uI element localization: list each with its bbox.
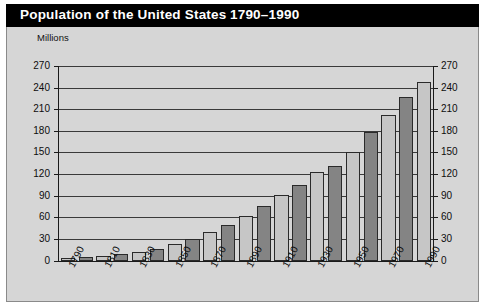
chart-title: Population of the United States: [20, 7, 226, 22]
y-axis-tick-left: [54, 217, 58, 218]
y-axis-label-right: 60: [441, 212, 475, 222]
y-axis-tick-left: [54, 174, 58, 175]
y-axis-tick-right: [434, 174, 438, 175]
y-axis-label-right: 120: [441, 169, 475, 179]
y-axis-tick-left: [54, 152, 58, 153]
chart-plate: Millions 0306090120150180210240270 03060…: [6, 27, 479, 302]
y-axis-tick-left: [54, 239, 58, 240]
bars-group: [59, 66, 433, 261]
y-axis-label-right: 0: [441, 256, 475, 266]
y-axis-label-left: 210: [16, 104, 50, 114]
y-axis-tick-right: [434, 239, 438, 240]
y-axis-label-left: 120: [16, 169, 50, 179]
bar-1980: [399, 97, 413, 261]
y-axis-tick-left: [54, 88, 58, 89]
y-axis-tick-right: [434, 196, 438, 197]
y-axis-label-left: 180: [16, 126, 50, 136]
y-axis-tick-right: [434, 152, 438, 153]
y-axis-tick-left: [54, 196, 58, 197]
y-axis-tick-right: [434, 66, 438, 67]
y-axis-units-label: Millions: [37, 32, 69, 43]
bar-1990: [417, 82, 431, 261]
y-axis-label-right: 240: [441, 83, 475, 93]
y-axis-tick-right: [434, 131, 438, 132]
bar-1970: [381, 115, 395, 261]
y-axis-label-right: 90: [441, 191, 475, 201]
y-axis-label-right: 270: [441, 61, 475, 71]
y-axis-label-right: 150: [441, 147, 475, 157]
y-axis-label-left: 60: [16, 212, 50, 222]
y-axis-label-right: 30: [441, 234, 475, 244]
y-axis-label-left: 240: [16, 83, 50, 93]
y-axis-tick-left: [54, 66, 58, 67]
bar-1960: [364, 132, 378, 261]
y-axis-tick-left: [54, 109, 58, 110]
bar-1950: [346, 152, 360, 261]
plot-area: [58, 66, 434, 262]
x-axis-labels: 1790181018301850187018901910193019501970…: [58, 264, 434, 304]
chart-header-bar: Population of the United States 1790–199…: [6, 4, 479, 27]
y-axis-label-left: 0: [16, 256, 50, 266]
y-axis-label-right: 210: [441, 104, 475, 114]
y-axis-tick-left: [54, 261, 58, 262]
y-axis-label-left: 30: [16, 234, 50, 244]
y-axis-tick-right: [434, 88, 438, 89]
chart-year-range: 1790–1990: [230, 7, 299, 22]
y-axis-tick-right: [434, 217, 438, 218]
population-bar-chart-figure: Population of the United States 1790–199…: [0, 0, 485, 307]
y-axis-label-left: 270: [16, 61, 50, 71]
y-axis-label-right: 180: [441, 126, 475, 136]
y-axis-label-left: 90: [16, 191, 50, 201]
y-axis-tick-right: [434, 109, 438, 110]
y-axis-tick-left: [54, 131, 58, 132]
y-axis-label-left: 150: [16, 147, 50, 157]
